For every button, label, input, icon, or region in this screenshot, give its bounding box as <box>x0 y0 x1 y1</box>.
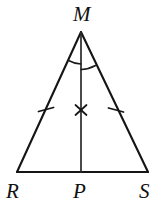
geometry-figure: M R P S <box>0 0 163 214</box>
vertex-label-S: S <box>139 181 150 202</box>
vertex-label-R: R <box>6 181 19 202</box>
side-MS <box>81 32 148 172</box>
vertex-label-M: M <box>73 4 91 25</box>
vertex-label-P: P <box>73 181 86 202</box>
tick-MS <box>109 108 124 112</box>
angle-arc-PMS <box>81 66 96 70</box>
angle-arc-RMP <box>69 61 82 65</box>
side-MR <box>17 32 81 172</box>
